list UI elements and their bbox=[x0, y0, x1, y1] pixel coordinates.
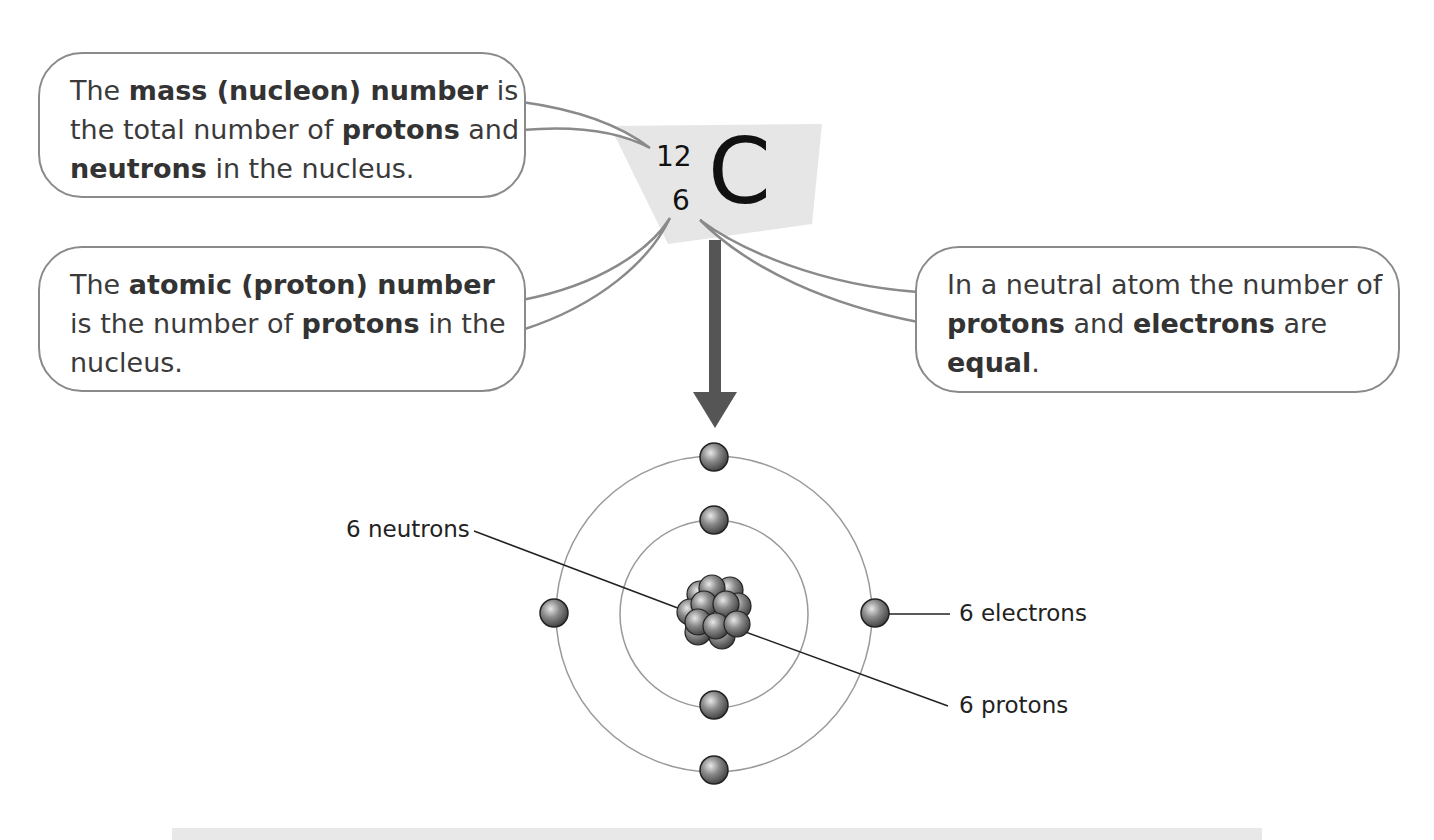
electrons-label: 6 electrons bbox=[959, 600, 1087, 626]
mass-number-callout: The mass (nucleon) number is the total n… bbox=[38, 52, 526, 198]
bold-term: atomic (proton) number bbox=[129, 269, 495, 300]
callout-text: and bbox=[1065, 308, 1133, 339]
bold-term: protons bbox=[342, 114, 460, 145]
atomic-number: 6 bbox=[672, 184, 690, 217]
bold-term: neutrons bbox=[70, 153, 207, 184]
callout-text: and bbox=[460, 114, 519, 145]
protons-leader bbox=[740, 630, 948, 706]
bold-term: protons bbox=[302, 308, 420, 339]
bold-term: protons bbox=[947, 308, 1065, 339]
nucleus bbox=[677, 575, 751, 649]
callout-text: . bbox=[1031, 347, 1040, 378]
arrow-shaft bbox=[709, 240, 721, 395]
callout-text: in the nucleus. bbox=[207, 153, 415, 184]
callout-text: is the number of bbox=[70, 308, 302, 339]
neutral-atom-callout: In a neutral atom the number of protons … bbox=[915, 246, 1400, 393]
arrow-head bbox=[693, 392, 737, 428]
callout-text: The bbox=[70, 269, 129, 300]
bold-term: electrons bbox=[1133, 308, 1275, 339]
bold-term: equal bbox=[947, 347, 1031, 378]
mass-number: 12 bbox=[656, 140, 692, 173]
element-symbol: C bbox=[708, 122, 771, 222]
protons-label: 6 protons bbox=[959, 692, 1068, 718]
callout-text: The bbox=[70, 75, 129, 106]
callout-text: are bbox=[1275, 308, 1327, 339]
callout-text: In a neutral atom the number of bbox=[947, 269, 1382, 300]
bold-term: mass (nucleon) number bbox=[129, 75, 488, 106]
neutrons-label: 6 neutrons bbox=[346, 516, 470, 542]
atomic-number-callout: The atomic (proton) number is the number… bbox=[38, 246, 526, 392]
